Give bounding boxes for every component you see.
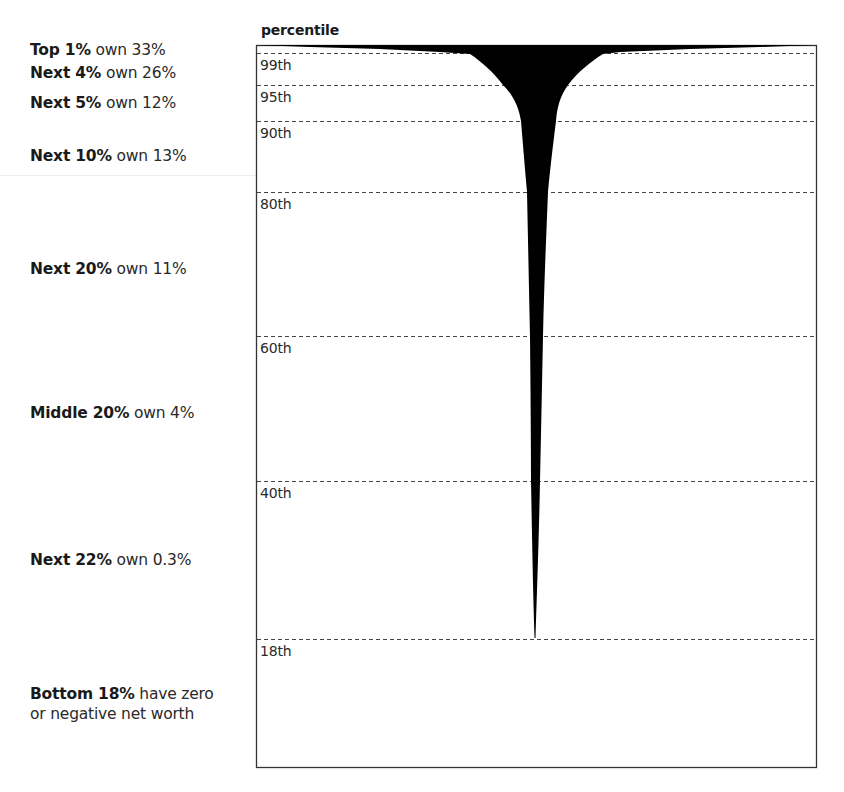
group-rest-line2: or negative net worth (30, 705, 194, 723)
group-rest: own 12% (101, 94, 176, 112)
group-rest: own 11% (112, 260, 187, 278)
axis-title: percentile (261, 22, 339, 38)
group-label-next20: Next 20% own 11% (30, 259, 187, 279)
group-rest: own 26% (101, 64, 176, 82)
tick-99th: 99th (260, 57, 291, 73)
group-rest: own 13% (112, 147, 187, 165)
tick-90th: 90th (260, 125, 291, 141)
group-label-next10: Next 10% own 13% (30, 146, 187, 166)
tick-95th: 95th (260, 89, 291, 105)
group-bold: Top 1% (30, 41, 91, 59)
group-bold: Bottom 18% (30, 685, 135, 703)
group-label-middle20: Middle 20% own 4% (30, 403, 194, 423)
tick-80th: 80th (260, 196, 291, 212)
group-label-top1: Top 1% own 33% (30, 40, 165, 60)
wealth-funnel-chart (0, 0, 844, 792)
tick-60th: 60th (260, 340, 291, 356)
group-label-next4: Next 4% own 26% (30, 63, 176, 83)
group-rest: own 0.3% (112, 551, 191, 569)
group-bold: Next 5% (30, 94, 101, 112)
tick-40th: 40th (260, 485, 291, 501)
group-bold: Next 4% (30, 64, 101, 82)
group-bold: Next 10% (30, 147, 112, 165)
tick-18th: 18th (260, 643, 291, 659)
group-rest: own 33% (91, 41, 166, 59)
group-label-bottom18: Bottom 18% have zero or negative net wor… (30, 684, 214, 724)
group-rest: have zero (135, 685, 214, 703)
group-bold: Middle 20% (30, 404, 129, 422)
group-label-next5: Next 5% own 12% (30, 93, 176, 113)
group-label-next22: Next 22% own 0.3% (30, 550, 191, 570)
group-rest: own 4% (129, 404, 194, 422)
group-bold: Next 22% (30, 551, 112, 569)
wealth-shape (256, 45, 816, 638)
group-bold: Next 20% (30, 260, 112, 278)
